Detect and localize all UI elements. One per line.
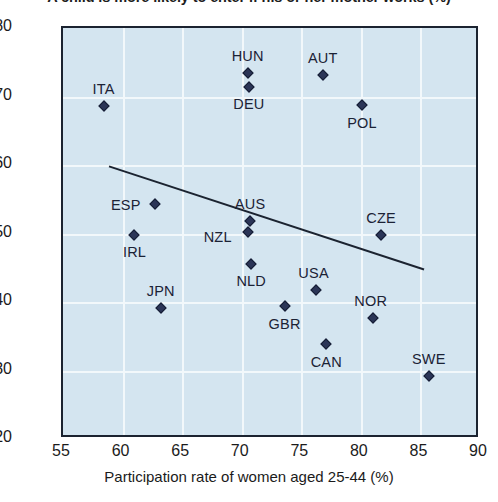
data-point-label: ITA <box>92 81 114 97</box>
data-point-marker <box>98 100 109 111</box>
data-point-label: USA <box>298 265 328 281</box>
gridline-horizontal <box>63 371 476 373</box>
y-axis-tick-label: 60 <box>0 154 12 172</box>
chart-title: A child is more likely to enter if his o… <box>0 0 498 5</box>
data-point-marker <box>149 198 160 209</box>
gridline-vertical <box>361 28 363 435</box>
x-axis-tick-label: 80 <box>350 442 368 460</box>
data-point-label: CAN <box>311 354 342 370</box>
data-point-label: DEU <box>233 96 264 112</box>
data-point-label: HUN <box>232 48 264 64</box>
data-point-marker <box>244 215 255 226</box>
plot-area: ITAIRLESPJPNHUNDEUAUSNZLNLDGBRUSAAUTCANP… <box>61 26 478 437</box>
plot-inner: ITAIRLESPJPNHUNDEUAUSNZLNLDGBRUSAAUTCANP… <box>63 28 476 435</box>
gridline-vertical <box>123 28 125 435</box>
data-point-label: AUS <box>235 196 265 212</box>
x-axis-tick-label: 70 <box>231 442 249 460</box>
data-point-marker <box>243 81 254 92</box>
x-axis-tick-label: 65 <box>171 442 189 460</box>
x-axis-tick-label: 55 <box>52 442 70 460</box>
data-point-marker <box>356 100 367 111</box>
gridline-horizontal <box>63 165 476 167</box>
data-point-label: GBR <box>269 316 301 332</box>
gridline-vertical <box>182 28 184 435</box>
y-axis-tick-label: 50 <box>0 223 12 241</box>
trendline <box>63 28 476 435</box>
gridline-horizontal <box>63 302 476 304</box>
data-point-label: SWE <box>412 351 446 367</box>
y-axis-tick-label: 80 <box>0 17 12 35</box>
data-point-label: JPN <box>147 283 175 299</box>
gridline-horizontal <box>63 97 476 99</box>
x-axis-label: Participation rate of women aged 25-44 (… <box>0 468 498 485</box>
data-point-marker <box>246 259 257 270</box>
data-point-label: NLD <box>236 273 266 289</box>
scatter-chart-figure: A child is more likely to enter if his o… <box>0 0 498 502</box>
data-point-marker <box>155 302 166 313</box>
data-point-marker <box>129 229 140 240</box>
gridline-vertical <box>420 28 422 435</box>
gridline-horizontal <box>63 234 476 236</box>
data-point-marker <box>317 69 328 80</box>
data-point-label: IRL <box>123 244 146 260</box>
y-axis-tick-label: 40 <box>0 291 12 309</box>
data-point-marker <box>321 339 332 350</box>
x-axis-tick-label: 75 <box>290 442 308 460</box>
data-point-label: CZE <box>366 210 396 226</box>
x-axis-tick-label: 60 <box>112 442 130 460</box>
data-point-label: NOR <box>354 293 387 309</box>
y-axis-tick-label: 70 <box>0 86 12 104</box>
data-point-label: ESP <box>111 197 141 213</box>
y-axis-tick-label: 30 <box>0 360 12 378</box>
data-point-label: POL <box>347 115 377 131</box>
data-point-label: NZL <box>204 229 232 245</box>
y-axis-tick-label: 20 <box>0 428 12 446</box>
data-point-marker <box>367 312 378 323</box>
x-axis-tick-label: 90 <box>469 442 487 460</box>
data-point-marker <box>375 229 386 240</box>
x-axis-tick-label: 85 <box>410 442 428 460</box>
gridline-vertical <box>301 28 303 435</box>
data-point-marker <box>310 285 321 296</box>
data-point-label: AUT <box>308 50 338 66</box>
